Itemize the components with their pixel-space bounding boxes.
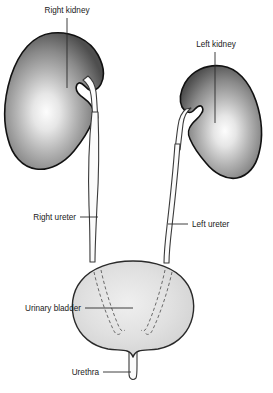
diagram-canvas: Right kidney Left kidney Right ureter Le… (0, 0, 273, 393)
right-kidney-shape (5, 33, 104, 170)
label-right-kidney: Right kidney (44, 6, 90, 15)
right-kidney-group (5, 33, 104, 170)
label-urinary-bladder: Urinary bladder (25, 304, 81, 313)
left-kidney-shape (180, 66, 261, 179)
urinary-bladder-group (72, 261, 193, 357)
label-left-ureter: Left ureter (192, 220, 230, 229)
right-ureter-tube (89, 112, 99, 262)
urinary-system-diagram: Right kidney Left kidney Right ureter Le… (0, 0, 273, 393)
left-kidney-group (180, 66, 261, 179)
left-ureter-tube (164, 144, 180, 263)
label-urethra: Urethra (72, 368, 100, 377)
label-left-kidney: Left kidney (196, 40, 237, 49)
urinary-bladder-shape (72, 261, 193, 357)
label-right-ureter: Right ureter (33, 213, 76, 222)
left-ureter-group (164, 108, 191, 263)
